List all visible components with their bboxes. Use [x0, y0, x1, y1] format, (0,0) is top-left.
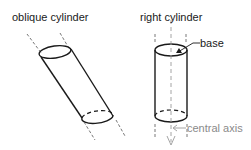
oblique-extension-line-bottom-right: [116, 120, 125, 136]
oblique-bottom-ellipse-front: [82, 116, 113, 123]
cylinder-diagram: oblique cylinder right cylinder base cen…: [0, 0, 251, 150]
oblique-bottom-ellipse-back: [82, 111, 113, 118]
right-cylinder-title: right cylinder: [140, 11, 202, 23]
oblique-side-left: [41, 57, 82, 118]
oblique-extension-line-bottom-left: [84, 122, 95, 140]
base-leader-line: [178, 43, 200, 52]
oblique-side-right: [71, 49, 113, 116]
base-label: base: [200, 37, 224, 49]
oblique-cylinder-title: oblique cylinder: [12, 11, 88, 23]
oblique-cylinder: [27, 33, 125, 140]
oblique-top-ellipse: [38, 44, 71, 60]
oblique-extension-line-top-left: [27, 34, 42, 54]
central-axis-label: central axis: [187, 122, 243, 134]
